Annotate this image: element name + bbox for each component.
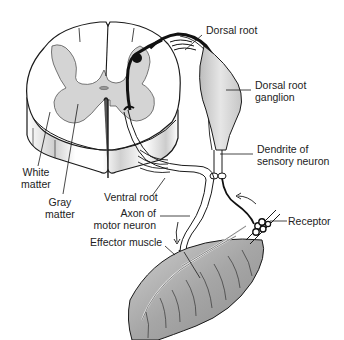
dorsal-root-ganglion [200, 46, 242, 150]
label-gray-matter: Gray matter [42, 196, 78, 220]
label-ventral-root: Ventral root [104, 191, 158, 203]
sensory-neuron-dendrite [210, 150, 254, 224]
central-canal [100, 86, 109, 89]
label-effector-muscle: Effector muscle [90, 236, 162, 248]
label-dendrite-line2: sensory neuron [257, 155, 329, 167]
label-receptor: Receptor [288, 215, 331, 227]
label-gray-matter-line1: Gray [42, 196, 78, 208]
label-dendrite-line1: Dendrite of [257, 143, 329, 155]
reflex-arc-diagram: Dorsal root Dorsal root ganglion Dendrit… [0, 0, 344, 340]
impulse-arrows [174, 193, 256, 244]
label-dorsal-root-ganglion-line1: Dorsal root [255, 79, 306, 91]
label-dorsal-root-ganglion: Dorsal root ganglion [255, 79, 306, 103]
spinal-cord [27, 22, 181, 178]
label-axon-line2: motor neuron [92, 219, 156, 231]
label-white-matter: White matter [18, 166, 54, 190]
label-white-matter-line1: White [18, 166, 54, 178]
label-dendrite-sensory-neuron: Dendrite of sensory neuron [257, 143, 329, 167]
label-axon-motor-neuron: Axon of motor neuron [92, 207, 156, 231]
label-axon-line1: Axon of [92, 207, 156, 219]
label-gray-matter-line2: matter [42, 208, 78, 220]
label-dorsal-root-ganglion-line2: ganglion [255, 91, 306, 103]
label-white-matter-line2: matter [18, 178, 54, 190]
label-dorsal-root: Dorsal root [206, 24, 257, 36]
